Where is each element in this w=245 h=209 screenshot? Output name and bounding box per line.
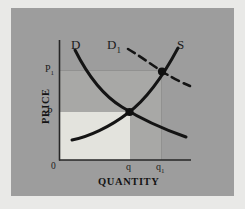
demand-label: D: [71, 38, 80, 55]
y-tick-p1: P1: [45, 64, 54, 77]
x-tick-q1: q1: [156, 162, 165, 175]
equilibrium-initial-dot: [125, 108, 133, 116]
figure-container: D D1 S P1 P q q1 0 PRICE QUANTITY: [0, 0, 245, 209]
shifted-demand-label: D1: [107, 38, 121, 55]
equilibrium-shifted-dot: [158, 67, 166, 75]
supply-label: S: [177, 38, 184, 55]
x-tick-q: q: [126, 162, 131, 175]
y-axis-title: PRICE: [41, 88, 52, 124]
x-axis-title: QUANTITY: [98, 177, 159, 188]
origin-label: 0: [51, 162, 56, 172]
